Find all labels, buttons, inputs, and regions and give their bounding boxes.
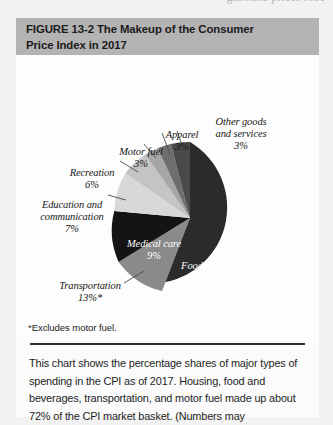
figure-header-bar: FIGURE 13-2 The Makeup of the Consumer P… [16,18,319,55]
pie-label-education-and-communication: Education and communication 7% [22,199,122,236]
pie-label-housing: Housing 42% [210,205,280,229]
pie-label-recreation: Recreation 6% [52,167,132,191]
chart-footnote: *Excludes motor fuel. [28,322,117,333]
caption-divider [30,343,305,345]
pie-label-food-and-beverages: Food and beverages 14% [164,260,220,309]
figure-header-line-1: FIGURE 13-2 The Makeup of the Consumer [26,22,311,38]
pie-chart-panel: Other goods and services 3% Apparel 3% M… [16,55,319,340]
figure-container: FIGURE 13-2 The Makeup of the Consumer P… [16,18,319,417]
pie-label-other-goods-and-services: Other goods and services 3% [198,116,284,153]
figure-caption: This chart shows the percentage shares o… [29,355,315,425]
cut-off-text-line: gasoline prices rose [226,0,325,5]
figure-header-line-2: Price Index in 2017 [26,38,311,54]
pie-label-medical-care: Medical care 9% [116,238,192,262]
pie-label-transportation: Transportation 13%* [42,280,138,304]
page-cut-off-text: gasoline prices rose [0,0,333,11]
